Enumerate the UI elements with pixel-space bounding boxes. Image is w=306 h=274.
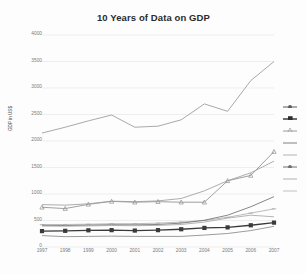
legend-swatch-icon	[283, 126, 303, 132]
data-point-marker	[179, 227, 183, 231]
legend-entry-7[interactable]	[283, 170, 306, 180]
data-point-marker	[202, 226, 206, 230]
data-point-marker	[249, 223, 253, 227]
legend-entry-8[interactable]	[283, 182, 306, 192]
data-series-line	[42, 62, 274, 134]
data-point-marker	[110, 228, 114, 232]
data-point-marker	[272, 221, 276, 225]
plot-area	[0, 0, 306, 274]
data-point-marker	[86, 228, 90, 232]
data-point-marker	[40, 229, 44, 233]
chart-legend[interactable]	[283, 98, 306, 194]
data-point-marker	[272, 149, 276, 153]
legend-entry-1[interactable]	[283, 98, 306, 108]
legend-swatch-icon	[283, 102, 303, 108]
legend-entry-4[interactable]	[283, 134, 306, 144]
legend-swatch-icon	[283, 162, 303, 168]
data-point-marker	[226, 225, 230, 229]
legend-entry-3[interactable]	[283, 122, 306, 132]
legend-swatch-icon	[283, 174, 303, 180]
gdp-line-chart: 10 Years of Data on GDP GDP in US$ 05001…	[0, 0, 306, 274]
legend-entry-6[interactable]	[283, 158, 306, 168]
data-point-marker	[63, 229, 67, 233]
legend-swatch-icon	[283, 138, 303, 144]
legend-swatch-icon	[283, 186, 303, 192]
data-point-marker	[156, 228, 160, 232]
legend-entry-5[interactable]	[283, 146, 306, 156]
legend-entry-2[interactable]	[283, 110, 306, 120]
legend-swatch-icon	[283, 114, 303, 120]
data-point-marker	[133, 228, 137, 232]
legend-swatch-icon	[283, 150, 303, 156]
